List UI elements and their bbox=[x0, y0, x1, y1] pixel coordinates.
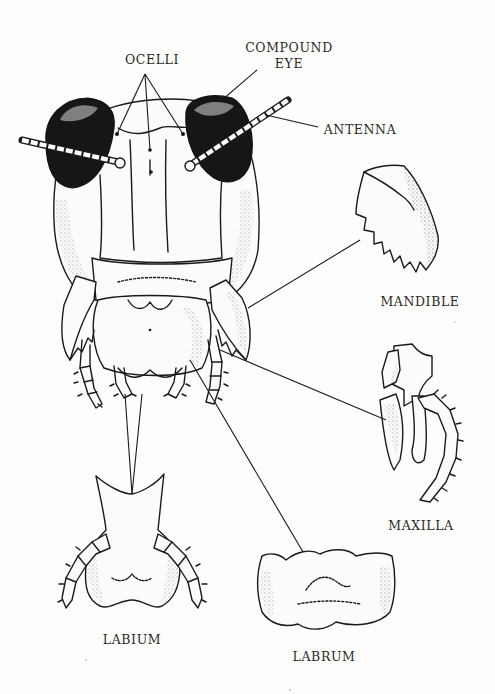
label-labrum: LABRUM bbox=[292, 649, 356, 665]
label-antenna: ANTENNA bbox=[320, 122, 400, 138]
label-ocelli: OCELLI bbox=[122, 52, 182, 68]
head-drawing bbox=[22, 96, 288, 408]
diagram-canvas: OCELLI COMPOUND EYE ANTENNA MANDIBLE MAX… bbox=[0, 0, 495, 694]
labrum-drawing bbox=[258, 550, 395, 629]
label-compound-eye: COMPOUND EYE bbox=[244, 40, 334, 72]
label-labium: LABIUM bbox=[100, 632, 164, 648]
label-maxilla: MAXILLA bbox=[386, 518, 456, 534]
label-compound-eye-line1: COMPOUND bbox=[244, 40, 334, 56]
maxilla-drawing bbox=[380, 344, 463, 502]
mandible-drawing bbox=[356, 165, 438, 272]
label-compound-eye-line2: EYE bbox=[244, 56, 334, 72]
insect-mouthparts-illustration bbox=[0, 0, 495, 694]
label-mandible: MANDIBLE bbox=[380, 294, 460, 310]
labium-drawing bbox=[58, 474, 207, 608]
